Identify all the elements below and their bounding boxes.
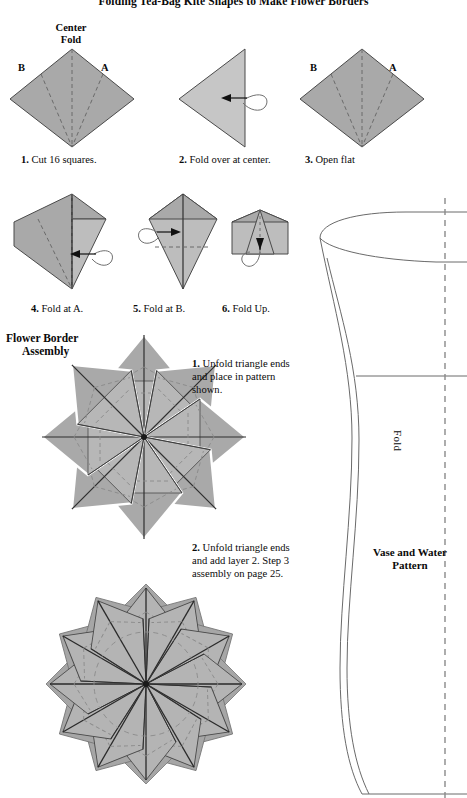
flower-rosette-layer2 [8, 570, 284, 798]
step-4-caption: 4. Fold at A. [31, 303, 83, 314]
step-6-number: 6. [222, 303, 230, 314]
step-4-number: 4. [31, 303, 39, 314]
step-2-caption: 2. Fold over at center. [179, 154, 271, 165]
instruction-1-number: 1. [192, 358, 200, 369]
instruction-1-text: Unfold triangle ends and place in patter… [192, 358, 290, 395]
page-canvas: Folding Tea-Bag Kite Shapes to Make Flow… [0, 0, 467, 798]
step-5-number: 5. [133, 303, 141, 314]
step-2-text: Fold over at center. [190, 154, 271, 165]
step-4-text: Fold at A. [42, 303, 84, 314]
step3-diagram [298, 47, 426, 149]
step-1-text: Cut 16 squares. [32, 154, 97, 165]
step2-diagram [175, 47, 303, 149]
step-3-number: 3. [305, 154, 313, 165]
vase-pattern-title-line2: Pattern [355, 559, 465, 573]
step1-diagram [8, 47, 136, 149]
instruction-2-number: 2. [192, 542, 200, 553]
page-title: Folding Tea-Bag Kite Shapes to Make Flow… [0, 0, 467, 7]
step4-diagram [10, 192, 130, 297]
step-6-text: Fold Up. [233, 303, 270, 314]
step-2-number: 2. [179, 154, 187, 165]
step-1-number: 1. [21, 154, 29, 165]
center-fold-label-line1: Center [49, 22, 93, 34]
assembly-instruction-1: 1. Unfold triangle ends and place in pat… [192, 357, 300, 397]
step-6-caption: 6. Fold Up. [222, 303, 270, 314]
step-5-caption: 5. Fold at B. [133, 303, 185, 314]
vase-pattern-diagram [296, 198, 467, 798]
center-fold-label-line2: Fold [49, 34, 93, 46]
step-3-text: Open flat [316, 154, 355, 165]
vase-fold-label: Fold [392, 430, 404, 451]
step-1-caption: 1. Cut 16 squares. [21, 154, 97, 165]
step-5-text: Fold at B. [144, 303, 186, 314]
vase-pattern-title-line1: Vase and Water [355, 546, 465, 560]
step-3-caption: 3. Open flat [305, 154, 355, 165]
